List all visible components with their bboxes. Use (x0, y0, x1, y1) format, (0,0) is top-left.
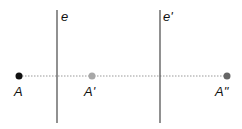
label-a: A (13, 84, 23, 99)
point-a (16, 73, 23, 80)
point-a-prime (89, 73, 96, 80)
diagram-canvas: e e' A A' A" (0, 0, 242, 129)
label-a-double-prime: A" (214, 84, 230, 99)
label-e-prime: e' (163, 9, 173, 24)
label-e: e (61, 9, 68, 24)
label-a-prime: A' (83, 84, 96, 99)
point-a-double-prime (224, 73, 231, 80)
